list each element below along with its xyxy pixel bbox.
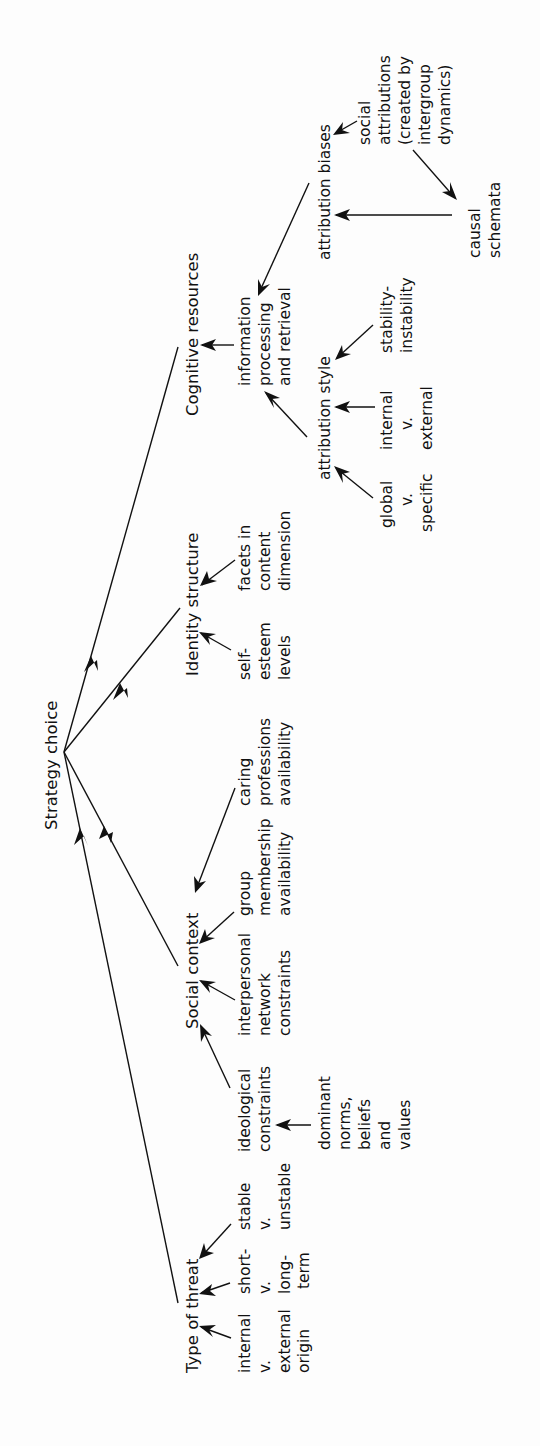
node-label-line: processing bbox=[256, 302, 274, 386]
edge-causal-to-biases bbox=[334, 209, 452, 221]
node-label-line: external bbox=[276, 1309, 294, 1373]
arrowhead-icon bbox=[333, 122, 350, 135]
node-cognitive-resources: Cognitive resources bbox=[183, 253, 202, 416]
node-attribution-style: attribution style bbox=[316, 356, 334, 480]
edge-intext-to-style bbox=[334, 401, 375, 413]
node-label-line: intergroup bbox=[416, 64, 434, 145]
edge-stable-to-threat bbox=[199, 1224, 231, 1259]
edge-dominant-to-ideological bbox=[275, 1119, 311, 1131]
node-global-specific: global v. specific bbox=[378, 473, 436, 532]
edge-social-to-strategy bbox=[64, 752, 178, 966]
node-stable-unstable: stable v. unstable bbox=[236, 1163, 294, 1230]
node-label-line: term bbox=[295, 1252, 313, 1289]
node-label-line: network bbox=[256, 973, 274, 1036]
node-label-line: short- bbox=[236, 1249, 254, 1294]
node-label-line: schemata bbox=[486, 182, 504, 258]
node-type-of-threat: Type of threat bbox=[183, 1258, 202, 1374]
node-label: attribution biases bbox=[316, 124, 334, 260]
node-facets-in-content-dimension: facets in content dimension bbox=[236, 511, 294, 591]
edge-interpersonal-to-social bbox=[199, 980, 235, 1000]
node-label-line: interpersonal bbox=[236, 933, 254, 1036]
node-label-line: internal bbox=[378, 391, 396, 450]
node-group-membership: group membership availability bbox=[236, 818, 294, 916]
node-label-line: internal bbox=[236, 1314, 254, 1373]
arrowhead-icon bbox=[113, 683, 128, 700]
node-causal-schemata: causal schemata bbox=[466, 182, 504, 258]
arrowhead-icon bbox=[74, 828, 88, 846]
node-label-line: availability bbox=[276, 722, 294, 806]
node-label-line: v. bbox=[256, 1360, 274, 1373]
node-caring-professions: caring professions availability bbox=[236, 718, 294, 806]
node-label-line: and bbox=[376, 1121, 394, 1150]
edge-style-to-info bbox=[264, 391, 307, 437]
node-label-line: dynamics) bbox=[436, 65, 454, 145]
node-label-line: v. bbox=[256, 1281, 274, 1294]
edge-global-to-style bbox=[334, 466, 373, 498]
node-label-line: and retrieval bbox=[276, 287, 294, 386]
edge-caring-to-social bbox=[194, 788, 235, 893]
edge-shortlong-to-threat bbox=[199, 1283, 230, 1296]
node-short-long-term: short- v. long- term bbox=[236, 1249, 313, 1294]
node-information-processing: information processing and retrieval bbox=[236, 287, 294, 386]
node-label: Type of threat bbox=[183, 1258, 202, 1374]
node-label-line: specific bbox=[418, 473, 436, 532]
node-label: Strategy choice bbox=[42, 701, 61, 830]
node-label-line: (created by bbox=[396, 56, 414, 145]
edge-stability-to-style bbox=[335, 325, 373, 360]
node-label-line: beliefs bbox=[356, 1099, 374, 1150]
node-label: Cognitive resources bbox=[183, 253, 202, 416]
arrowhead-icon bbox=[200, 571, 217, 586]
node-label-line: global bbox=[378, 481, 396, 528]
edge-intextorigin-to-threat bbox=[199, 1325, 231, 1338]
node-label-line: esteem bbox=[256, 622, 274, 680]
node-label-line: group bbox=[236, 871, 254, 916]
node-label-line: stability- bbox=[378, 286, 396, 353]
edge-ideological-to-social bbox=[200, 1024, 230, 1088]
node-interpersonal-network: interpersonal network constraints bbox=[236, 933, 294, 1036]
edge-facets-to-identity bbox=[200, 560, 235, 586]
node-label-line: availability bbox=[276, 832, 294, 916]
node-label-line: facets in bbox=[236, 525, 254, 591]
node-label-line: instability bbox=[398, 277, 416, 353]
node-internal-external: internal v. external bbox=[378, 386, 436, 450]
node-label-line: constraints bbox=[256, 1066, 274, 1152]
node-label-line: dominant bbox=[316, 1076, 334, 1150]
node-strategy-choice: Strategy choice bbox=[42, 701, 61, 830]
node-label-line: dimension bbox=[276, 511, 294, 591]
arrowhead-icon bbox=[84, 656, 98, 672]
edge-socialattr-to-biases bbox=[333, 121, 357, 135]
strategy-choice-diagram: Strategy choice Cognitive resources Iden… bbox=[0, 0, 540, 1446]
node-label-line: stable bbox=[236, 1183, 254, 1230]
node-label-line: levels bbox=[276, 635, 294, 680]
edge-identity-to-strategy bbox=[64, 608, 180, 752]
node-self-esteem-levels: self- esteem levels bbox=[236, 622, 294, 680]
node-label-line: attributions bbox=[376, 55, 394, 145]
node-label-line: membership bbox=[256, 818, 274, 916]
node-label-line: social bbox=[356, 101, 374, 145]
node-dominant-norms: dominant norms, beliefs and values bbox=[316, 1076, 414, 1150]
node-label-line: information bbox=[236, 297, 254, 386]
node-label-line: constraints bbox=[276, 950, 294, 1036]
node-social-attributions: social attributions (created by intergro… bbox=[356, 55, 454, 145]
node-social-context: Social context bbox=[183, 912, 202, 1029]
node-label-line: values bbox=[396, 1100, 414, 1150]
edge-threat-to-strategy bbox=[64, 752, 178, 1303]
node-label: Social context bbox=[183, 912, 202, 1029]
node-label-line: content bbox=[256, 532, 274, 591]
edge-group-to-social bbox=[199, 912, 234, 944]
edge-selfesteem-to-identity bbox=[199, 632, 231, 650]
arrowhead-icon bbox=[99, 826, 113, 843]
edge-socialattr-to-causal bbox=[413, 150, 457, 200]
node-label: Identity structure bbox=[183, 533, 202, 676]
node-label-line: v. bbox=[256, 1217, 274, 1230]
node-label-line: v. bbox=[398, 417, 416, 430]
arrowhead-icon bbox=[334, 466, 350, 483]
node-label-line: causal bbox=[466, 208, 484, 258]
arrowhead-icon bbox=[200, 1024, 212, 1042]
node-attribution-biases: attribution biases bbox=[316, 124, 334, 260]
node-identity-structure: Identity structure bbox=[183, 533, 202, 676]
node-label-line: norms, bbox=[336, 1096, 354, 1150]
node-label-line: professions bbox=[256, 718, 274, 806]
node-label-line: external bbox=[418, 386, 436, 450]
node-label: attribution style bbox=[316, 356, 334, 480]
